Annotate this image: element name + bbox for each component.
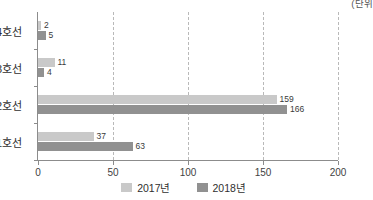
unit-caption: (단위 <box>351 0 373 10</box>
gridline-100 <box>188 12 189 160</box>
bar-value-1호선-2017년: 37 <box>97 132 106 141</box>
plot-area: 050100150200 251141591663763 <box>38 12 338 160</box>
legend-item-2017년[interactable]: 2017년 <box>121 180 170 195</box>
y-tick-2호선 <box>34 123 38 124</box>
bar-3호선-2017년 <box>38 58 55 67</box>
bar-value-4호선-2018년: 5 <box>49 31 54 40</box>
category-label-3: 3호선 <box>0 60 22 76</box>
bar-value-1호선-2018년: 63 <box>136 142 145 151</box>
bar-4호선-2017년 <box>38 21 41 30</box>
bar-value-3호선-2018년: 4 <box>47 68 52 77</box>
category-label-1: 1호선 <box>0 134 22 150</box>
category-label-4: 4호선 <box>0 23 22 39</box>
x-tick-label-150: 150 <box>255 167 272 178</box>
x-tick-label-100: 100 <box>180 167 197 178</box>
category-label-2: 2호선 <box>0 97 22 113</box>
bar-value-3호선-2017년: 11 <box>58 58 67 67</box>
bar-2호선-2018년 <box>38 105 287 114</box>
bar-3호선-2018년 <box>38 68 44 77</box>
bar-2호선-2017년 <box>38 95 277 104</box>
chart-legend: 2017년2018년 <box>0 180 367 195</box>
gridline-50 <box>113 12 114 160</box>
bar-value-4호선-2017년: 2 <box>44 21 49 30</box>
legend-label-2017년: 2017년 <box>137 180 170 195</box>
gridline-150 <box>263 12 264 160</box>
bar-4호선-2018년 <box>38 31 46 40</box>
x-tick-label-200: 200 <box>330 167 347 178</box>
bar-1호선-2018년 <box>38 142 133 151</box>
y-tick-1호선 <box>34 160 38 161</box>
x-tick-label-50: 50 <box>107 167 118 178</box>
legend-swatch-2018년 <box>197 183 208 192</box>
legend-label-2018년: 2018년 <box>213 180 246 195</box>
y-tick-4호선 <box>34 49 38 50</box>
x-tick-label-0: 0 <box>35 167 41 178</box>
bar-value-2호선-2017년: 159 <box>280 95 294 104</box>
bar-1호선-2017년 <box>38 132 94 141</box>
x-tick-200 <box>338 161 339 165</box>
legend-item-2018년[interactable]: 2018년 <box>197 180 246 195</box>
x-tick-0 <box>38 161 39 165</box>
x-tick-50 <box>113 161 114 165</box>
x-tick-150 <box>263 161 264 165</box>
bar-value-2호선-2018년: 166 <box>290 105 304 114</box>
y-tick-3호선 <box>34 86 38 87</box>
legend-swatch-2017년 <box>121 183 132 192</box>
x-tick-100 <box>188 161 189 165</box>
gridline-200 <box>338 12 339 160</box>
